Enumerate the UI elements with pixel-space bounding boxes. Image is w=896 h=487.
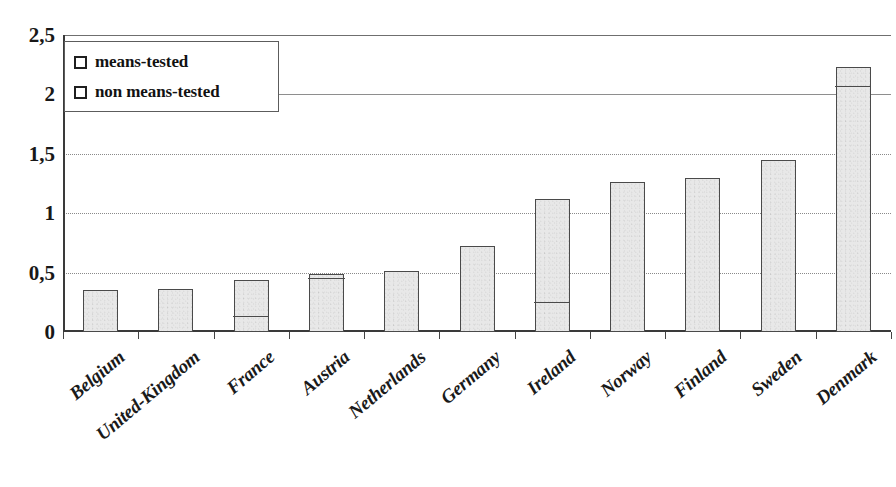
bar <box>610 182 645 332</box>
bar-group <box>535 35 570 332</box>
x-axis-label-text: Ireland <box>523 346 581 399</box>
x-axis-labels: BelgiumUnited-KingdomFranceAustriaNether… <box>63 332 891 482</box>
legend-label: means-tested <box>95 52 188 72</box>
y-axis: 2,5 2 1,5 1 0,5 0 <box>0 35 55 332</box>
y-tick-label: 2 <box>3 82 55 107</box>
bar-chart: 2,5 2 1,5 1 0,5 0 means-tested non means… <box>0 0 896 487</box>
bar <box>83 290 118 332</box>
y-tick-label: 0 <box>3 320 55 345</box>
legend: means-tested non means-tested <box>64 41 279 112</box>
x-axis-label-text: Sweden <box>747 346 806 401</box>
bar-group <box>685 35 720 332</box>
y-tick-label: 1,5 <box>3 141 55 166</box>
y-tick-label: 2,5 <box>3 23 55 48</box>
legend-swatch-icon <box>74 86 87 99</box>
bar <box>761 160 796 332</box>
bar-segment-divider <box>534 302 570 303</box>
x-axis-label-text: Denmark <box>812 346 882 409</box>
bar-group <box>761 35 796 332</box>
x-axis-label-text: Finland <box>669 346 731 403</box>
bar-segment-divider <box>835 86 871 87</box>
bar-group <box>309 35 344 332</box>
bar <box>685 178 720 332</box>
bar-segment-divider <box>308 278 344 279</box>
x-axis-label-text: Germany <box>436 346 505 409</box>
bar <box>836 67 871 332</box>
x-axis-label-text: France <box>222 346 279 399</box>
legend-item-non-means-tested: non means-tested <box>74 77 270 107</box>
bar-group <box>836 35 871 332</box>
y-tick-label: 1 <box>3 201 55 226</box>
y-tick-label: 0,5 <box>3 260 55 285</box>
x-axis-label-text: Norway <box>596 346 656 401</box>
legend-swatch-icon <box>74 56 87 69</box>
bar-group <box>384 35 419 332</box>
x-axis-label-text: Belgium <box>65 346 129 405</box>
x-axis-label-text: Austria <box>297 346 355 399</box>
legend-label: non means-tested <box>95 82 219 102</box>
legend-item-means-tested: means-tested <box>74 47 270 77</box>
bar-group <box>610 35 645 332</box>
